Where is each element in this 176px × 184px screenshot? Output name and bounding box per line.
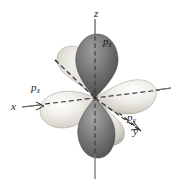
pz-label-base: p: [103, 35, 109, 47]
px-label-subscript: x: [37, 87, 40, 95]
py-orbital-label: py: [127, 112, 136, 123]
pz-orbital-label: pz: [103, 36, 111, 47]
z-axis-label: z: [94, 8, 98, 19]
px-orbital-label: px: [31, 82, 40, 93]
px-label-base: p: [31, 81, 37, 93]
p-orbitals-figure: x y z px py pz: [0, 0, 176, 184]
py-label-base: p: [127, 111, 133, 123]
py-label-subscript: y: [133, 117, 136, 125]
orbital-diagram-canvas: [0, 0, 176, 184]
y-axis-label: y: [133, 126, 138, 137]
x-axis-label: x: [11, 101, 16, 112]
